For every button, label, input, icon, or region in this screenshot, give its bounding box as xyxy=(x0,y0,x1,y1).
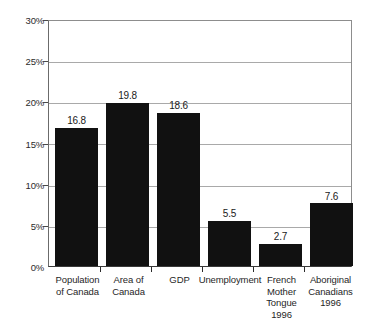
ytick-label-30: 30% xyxy=(4,15,44,26)
bar-aboriginal-canadians-1996[interactable] xyxy=(310,203,353,266)
bar-value-french-mother-tongue-1996: 2.7 xyxy=(245,231,316,242)
xcat-line: Canadians xyxy=(294,286,367,298)
xtick-mark-4 xyxy=(253,267,254,272)
bar-slot-unemployment: 5.5 xyxy=(208,19,251,266)
ytick-mark-25 xyxy=(43,61,48,62)
bar-slot-aboriginal-canadians-1996: 7.6 xyxy=(310,19,353,266)
bar-slot-population-of-canada: 16.8 xyxy=(55,19,98,266)
ytick-label-0: 0% xyxy=(4,262,44,273)
ytick-label-25: 25% xyxy=(4,56,44,67)
ytick-mark-10 xyxy=(43,185,48,186)
bar-slot-gdp: 18.6 xyxy=(157,19,200,266)
bar-french-mother-tongue-1996[interactable] xyxy=(259,244,302,266)
bar-unemployment[interactable] xyxy=(208,221,251,266)
bar-value-unemployment: 5.5 xyxy=(194,208,265,219)
bar-area-of-canada[interactable] xyxy=(106,103,149,266)
ytick-mark-15 xyxy=(43,144,48,145)
bar-slot-area-of-canada: 19.8 xyxy=(106,19,149,266)
bar-chart: 16.8 19.8 18.6 5.5 2.7 7.6 30% 25% 20% 1… xyxy=(0,0,368,335)
bar-gdp[interactable] xyxy=(157,113,200,266)
xtick-mark-1 xyxy=(100,267,101,272)
ytick-mark-5 xyxy=(43,226,48,227)
bar-slot-french-mother-tongue-1996: 2.7 xyxy=(259,19,302,266)
bar-value-gdp: 18.6 xyxy=(143,100,214,111)
ytick-label-20: 20% xyxy=(4,97,44,108)
bar-value-population-of-canada: 16.8 xyxy=(41,115,112,126)
xtick-mark-2 xyxy=(151,267,152,272)
bar-population-of-canada[interactable] xyxy=(55,128,98,266)
ytick-label-10: 10% xyxy=(4,179,44,190)
xtick-mark-3 xyxy=(202,267,203,272)
ytick-mark-20 xyxy=(43,102,48,103)
xcat-line: Aboriginal xyxy=(294,274,367,286)
plot-area: 16.8 19.8 18.6 5.5 2.7 7.6 xyxy=(48,20,352,267)
xcat-line: 1996 xyxy=(294,297,367,309)
xcat-line: 1996 xyxy=(245,309,318,321)
bar-value-aboriginal-canadians-1996: 7.6 xyxy=(296,191,367,202)
xtick-mark-5 xyxy=(304,267,305,272)
ytick-label-15: 15% xyxy=(4,138,44,149)
xcat-label-aboriginal-canadians-1996: Aboriginal Canadians 1996 xyxy=(294,274,367,309)
ytick-label-5: 5% xyxy=(4,220,44,231)
ytick-mark-30 xyxy=(43,20,48,21)
xcat-line: Canada xyxy=(91,286,166,298)
